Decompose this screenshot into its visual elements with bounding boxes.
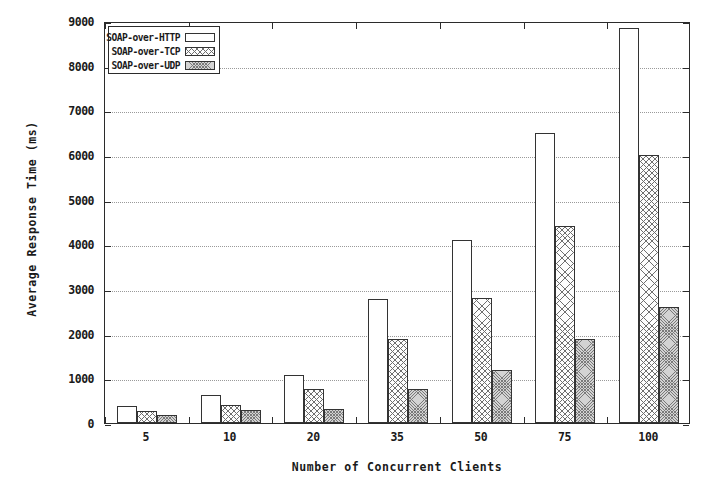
- x-axis-tick-label: 5: [143, 430, 150, 444]
- x-axis-tick-top: [105, 23, 106, 29]
- bar: [535, 133, 555, 423]
- y-axis-tick: [105, 425, 111, 426]
- gridline: [105, 336, 689, 337]
- bar: [117, 406, 137, 423]
- y-axis-tick-right: [683, 246, 689, 247]
- x-axis-tick: [356, 417, 357, 423]
- y-axis-tick-label: 0: [88, 417, 94, 431]
- x-axis-tick: [607, 417, 608, 423]
- legend: SOAP-over-HTTP SOAP-over-TCP SOAP-over-U…: [108, 26, 220, 74]
- legend-swatch-http: [185, 33, 215, 42]
- y-axis-tick-right: [683, 380, 689, 381]
- y-axis-tick: [105, 112, 111, 113]
- y-axis-tick-right: [683, 68, 689, 69]
- y-axis-tick: [105, 336, 111, 337]
- y-axis-tick-right: [683, 425, 689, 426]
- x-axis-tick-label: 50: [474, 430, 487, 444]
- x-axis-tick-label: 100: [638, 430, 658, 444]
- y-axis-tick-label: 8000: [68, 60, 94, 74]
- y-axis-tick: [105, 157, 111, 158]
- bar: [157, 415, 177, 423]
- x-axis-tick-label: 20: [307, 430, 320, 444]
- legend-item-2: SOAP-over-UDP: [113, 58, 215, 72]
- bar: [388, 339, 408, 423]
- x-axis-tick-label: 75: [558, 430, 571, 444]
- y-axis-tick-labels: 0100020003000400050006000700080009000: [0, 22, 98, 424]
- y-axis-tick: [105, 202, 111, 203]
- bar: [368, 299, 388, 423]
- y-axis-tick: [105, 380, 111, 381]
- x-axis-tick-top: [607, 23, 608, 29]
- bar: [221, 405, 241, 423]
- gridline: [105, 246, 689, 247]
- gridline: [105, 291, 689, 292]
- y-axis-tick-label: 6000: [68, 149, 94, 163]
- gridline: [105, 202, 689, 203]
- legend-item-1: SOAP-over-TCP: [113, 44, 215, 58]
- y-axis-tick-label: 5000: [68, 194, 94, 208]
- bar: [137, 411, 157, 424]
- bar: [408, 389, 428, 423]
- y-axis-tick-right: [683, 336, 689, 337]
- bar: [555, 226, 575, 423]
- bar: [619, 28, 639, 423]
- x-axis-tick-labels: 51020355075100: [104, 430, 690, 450]
- x-axis-tick-top: [440, 23, 441, 29]
- plot-area: SOAP-over-HTTP SOAP-over-TCP SOAP-over-U…: [104, 22, 690, 424]
- y-axis-tick-right: [683, 202, 689, 203]
- legend-label-http: SOAP-over-HTTP: [106, 32, 180, 43]
- bar: [452, 240, 472, 423]
- bar: [284, 375, 304, 423]
- bar: [324, 409, 344, 423]
- y-axis-tick-right: [683, 157, 689, 158]
- x-axis-title: Number of Concurrent Clients: [104, 460, 690, 474]
- y-axis-tick-right: [683, 291, 689, 292]
- x-axis-tick-top: [524, 23, 525, 29]
- legend-label-tcp: SOAP-over-TCP: [111, 46, 180, 57]
- y-axis-tick-label: 2000: [68, 328, 94, 342]
- x-axis-tick: [105, 417, 106, 423]
- legend-swatch-tcp: [185, 47, 215, 56]
- bar: [492, 370, 512, 423]
- y-axis-tick-right: [683, 23, 689, 24]
- x-axis-tick-top: [356, 23, 357, 29]
- bar: [201, 395, 221, 423]
- bar: [304, 389, 324, 423]
- x-axis-tick-top: [272, 23, 273, 29]
- y-axis-tick-label: 9000: [68, 15, 94, 29]
- y-axis-tick: [105, 291, 111, 292]
- y-axis-tick-label: 7000: [68, 104, 94, 118]
- legend-label-udp: SOAP-over-UDP: [111, 60, 180, 71]
- x-axis-tick-label: 35: [390, 430, 403, 444]
- bar-chart: Average Response Time (ms) 0100020003000…: [0, 0, 710, 491]
- x-axis-tick: [524, 417, 525, 423]
- legend-swatch-udp: [185, 61, 215, 70]
- y-axis-tick-label: 1000: [68, 372, 94, 386]
- x-axis-tick-label: 10: [223, 430, 236, 444]
- bar: [241, 410, 261, 423]
- bar: [659, 307, 679, 423]
- x-axis-tick: [272, 417, 273, 423]
- gridline: [105, 157, 689, 158]
- y-axis-tick-label: 4000: [68, 238, 94, 252]
- y-axis-tick-right: [683, 112, 689, 113]
- bar: [575, 339, 595, 423]
- x-axis-tick: [189, 417, 190, 423]
- bar: [472, 298, 492, 423]
- legend-item-0: SOAP-over-HTTP: [113, 30, 215, 44]
- gridline: [105, 112, 689, 113]
- y-axis-tick: [105, 246, 111, 247]
- x-axis-tick: [440, 417, 441, 423]
- y-axis-tick-label: 3000: [68, 283, 94, 297]
- bar: [639, 155, 659, 423]
